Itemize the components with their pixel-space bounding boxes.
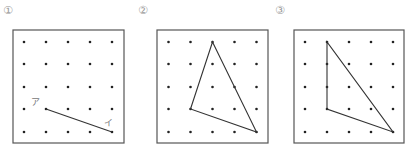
grid-dot (45, 63, 48, 66)
grid-dot (167, 131, 170, 134)
grid-dot (67, 41, 70, 44)
grid-dot (370, 63, 373, 66)
panel-number-2: ② (138, 4, 148, 17)
grid-dot (304, 86, 307, 89)
grid-dot (23, 86, 26, 89)
grid-dot (233, 131, 236, 134)
grid-dot (67, 63, 70, 66)
grid-dot (111, 86, 114, 89)
grid-dot (348, 63, 351, 66)
grid-dot (348, 108, 351, 111)
grid-dot (45, 131, 48, 134)
grid-dot (189, 63, 192, 66)
grid-dot (233, 108, 236, 111)
grid-dot (23, 63, 26, 66)
grid-dot (255, 86, 258, 89)
grid-dot (348, 41, 351, 44)
grid-dot (370, 108, 373, 111)
grid-dot (211, 86, 214, 89)
grid-dot (89, 41, 92, 44)
grid-dot (370, 86, 373, 89)
grid-dot (233, 63, 236, 66)
grid-dot (255, 41, 258, 44)
grid-dot (23, 131, 26, 134)
grid-dot (211, 131, 214, 134)
grid-dot (211, 63, 214, 66)
grid-dot (89, 131, 92, 134)
panel-number-3: ③ (275, 4, 285, 17)
grid-dot (304, 63, 307, 66)
grid-dot (67, 108, 70, 111)
triangle-shape (191, 42, 257, 132)
grid-dot (326, 131, 329, 134)
grid-dot (111, 41, 114, 44)
grid-dot (167, 41, 170, 44)
grid-dot (255, 63, 258, 66)
grid-dot (392, 86, 395, 89)
panel-number-1: ① (3, 4, 13, 17)
grid-dot (167, 108, 170, 111)
triangle-shape (327, 42, 393, 132)
grid-dot (348, 86, 351, 89)
grid-dot (304, 108, 307, 111)
grid-dot (348, 131, 351, 134)
grid-dot (370, 41, 373, 44)
grid-dot (392, 41, 395, 44)
panel-2: ② (138, 4, 268, 143)
grid-dot (233, 41, 236, 44)
grid-dot (189, 131, 192, 134)
grid-dot (211, 108, 214, 111)
grid-dot (392, 63, 395, 66)
grid-dot (370, 131, 373, 134)
grid-dot (167, 63, 170, 66)
grid-dot (89, 86, 92, 89)
grid-dot (111, 63, 114, 66)
grid-dot (189, 86, 192, 89)
grid-dot (111, 108, 114, 111)
panel-1: ① アイ (3, 4, 124, 143)
line-segment (46, 109, 112, 132)
grid-dot (189, 41, 192, 44)
grid-dot (23, 41, 26, 44)
point-label: ア (31, 97, 40, 107)
grid-dot (89, 63, 92, 66)
grid-dot (304, 41, 307, 44)
grid-dot (23, 108, 26, 111)
point-label: イ (104, 118, 113, 128)
grid-dot (45, 86, 48, 89)
geoboard-figures: ① アイ ② ③ (0, 0, 411, 152)
grid-dot (89, 108, 92, 111)
grid-dot (167, 86, 170, 89)
grid-dot (67, 86, 70, 89)
grid-dot (392, 108, 395, 111)
grid-dot (45, 41, 48, 44)
grid-dot (67, 131, 70, 134)
grid-dot (255, 108, 258, 111)
grid-dot (304, 131, 307, 134)
panel-3: ③ (275, 4, 404, 143)
